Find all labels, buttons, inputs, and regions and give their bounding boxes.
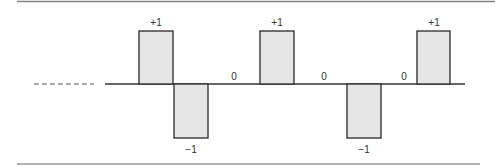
pulse-diagram: +1 −1 0 +1 0 −1 0 +1 bbox=[0, 0, 495, 166]
label-zero-1: 0 bbox=[231, 71, 237, 82]
pulse-positive-1 bbox=[139, 31, 173, 84]
label-plus-1: +1 bbox=[150, 17, 162, 28]
pulse-positive-3 bbox=[417, 31, 450, 84]
label-plus-3: +1 bbox=[428, 17, 440, 28]
pulse-negative-1 bbox=[174, 84, 208, 138]
label-minus-1: −1 bbox=[185, 144, 197, 155]
pulse-negative-2 bbox=[347, 84, 381, 138]
label-minus-2: −1 bbox=[358, 144, 370, 155]
label-zero-3: 0 bbox=[401, 71, 407, 82]
label-plus-2: +1 bbox=[271, 17, 283, 28]
pulse-positive-2 bbox=[260, 31, 294, 84]
label-zero-2: 0 bbox=[321, 71, 327, 82]
